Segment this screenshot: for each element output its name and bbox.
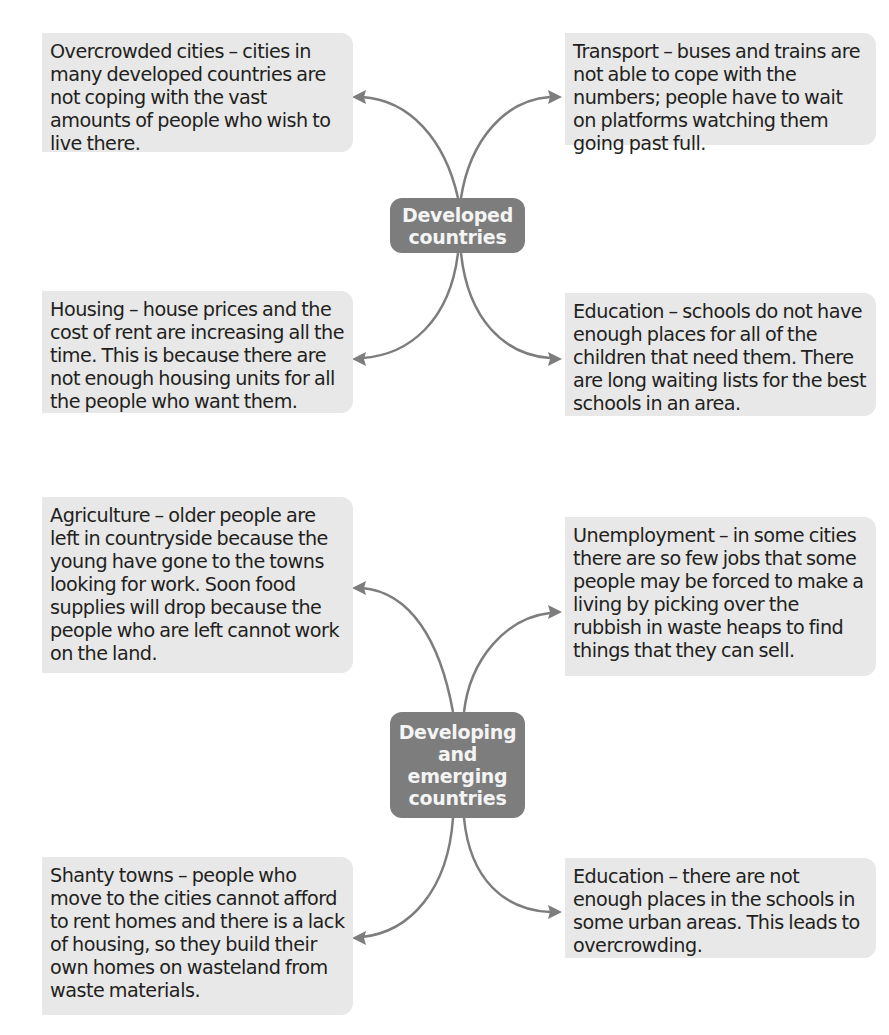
central-node-developing-emerging-countries: Developing and emerging countries [390, 712, 525, 818]
box-text: Transport – buses and trains are not abl… [573, 40, 860, 155]
box-text: Education – schools do not have enough p… [573, 300, 866, 415]
arrowhead-icon [548, 605, 562, 619]
box-text: Shanty towns – people who move to the ci… [50, 864, 345, 1002]
arrow-to-housing [362, 253, 458, 358]
arrowhead-icon [548, 352, 562, 366]
arrow-to-education-developing [464, 818, 550, 912]
box-text: Agriculture – older people are left in c… [50, 504, 339, 665]
box-agriculture: Agriculture – older people are left in c… [42, 497, 353, 673]
box-text: Housing – house prices and the cost of r… [50, 298, 344, 413]
arrowhead-icon [352, 581, 366, 595]
arrowhead-icon [352, 90, 366, 104]
box-text: Unemployment – in some cities there are … [573, 524, 864, 662]
arrow-to-transport [461, 97, 550, 198]
node-label: Developing and emerging countries [394, 721, 521, 809]
arrowhead-icon [352, 931, 366, 945]
box-text: Education – there are not enough places … [573, 865, 860, 957]
node-label: Developed countries [394, 204, 521, 248]
arrow-to-agriculture [362, 588, 453, 712]
box-shanty-towns: Shanty towns – people who move to the ci… [42, 857, 353, 1015]
arrow-to-overcrowded-cities [362, 97, 458, 198]
arrowhead-icon [352, 352, 366, 366]
box-text: Overcrowded cities – cities in many deve… [50, 40, 331, 155]
central-node-developed-countries: Developed countries [390, 198, 525, 253]
box-housing: Housing – house prices and the cost of r… [42, 291, 353, 413]
box-unemployment: Unemployment – in some cities there are … [565, 517, 876, 676]
box-overcrowded-cities: Overcrowded cities – cities in many deve… [42, 33, 353, 152]
box-transport: Transport – buses and trains are not abl… [565, 33, 876, 145]
box-education-developed: Education – schools do not have enough p… [565, 293, 876, 416]
arrow-to-unemployment [464, 613, 550, 712]
box-education-developing: Education – there are not enough places … [565, 858, 876, 958]
arrow-to-shanty-towns [362, 818, 453, 937]
arrow-to-education-developed [461, 253, 550, 358]
arrowhead-icon [548, 90, 562, 104]
arrowhead-icon [548, 905, 562, 919]
